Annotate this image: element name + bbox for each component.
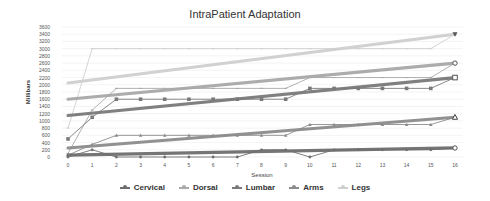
y-tick-label: 2400	[39, 67, 50, 73]
y-tick-label: 2000	[39, 82, 50, 88]
legend-label: Lumbar	[246, 183, 275, 192]
end-marker	[453, 61, 457, 65]
y-tick-label: 400	[42, 140, 51, 146]
data-point	[139, 156, 142, 159]
data-point	[308, 87, 312, 91]
legend-swatch-icon	[120, 187, 130, 189]
legend-item-lumbar[interactable]: Lumbar	[232, 183, 275, 192]
legend-swatch-icon	[338, 187, 348, 189]
y-tick-label: 2200	[39, 75, 50, 81]
y-tick-label: 1200	[39, 111, 50, 117]
data-point	[308, 156, 311, 159]
y-tick-label: 1600	[39, 96, 50, 102]
data-point	[66, 137, 70, 141]
legend-label: Legs	[352, 183, 371, 192]
legend-swatch-icon	[289, 187, 299, 189]
x-tick-label: 3	[139, 162, 142, 168]
x-tick-label: 2	[115, 162, 118, 168]
data-point	[429, 87, 433, 91]
end-marker	[453, 75, 458, 80]
chart: IntraPatient Adaptation 0200400600800100…	[0, 0, 490, 201]
y-tick-label: 2800	[39, 53, 50, 59]
data-point	[236, 156, 239, 159]
trendline-arms	[68, 117, 455, 148]
y-axis-label: Millibars	[25, 79, 31, 104]
data-point	[139, 97, 143, 101]
x-tick-label: 6	[212, 162, 215, 168]
x-tick-label: 9	[284, 162, 287, 168]
x-tick-label: 11	[331, 162, 336, 168]
trendline-lumbar	[68, 78, 455, 116]
data-point	[163, 97, 167, 101]
y-tick-label: 0	[47, 154, 50, 160]
x-tick-label: 8	[260, 162, 263, 168]
y-tick-label: 3400	[39, 31, 50, 37]
legend-item-cervical[interactable]: Cervical	[120, 183, 165, 192]
data-point	[115, 97, 119, 101]
data-point	[381, 87, 385, 91]
x-axis-label: Session	[251, 172, 272, 178]
trendline-dorsal	[68, 63, 455, 99]
y-tick-label: 1800	[39, 89, 50, 95]
legend-label: Arms	[303, 183, 323, 192]
end-marker	[452, 114, 457, 119]
y-tick-label: 200	[42, 147, 51, 153]
x-tick-label: 1	[91, 162, 94, 168]
plot-area: 0200400600800100012001400160018002000220…	[0, 0, 490, 201]
data-point	[187, 97, 191, 101]
data-point	[405, 87, 409, 91]
end-marker	[453, 146, 457, 150]
data-point	[91, 148, 94, 151]
legend-label: Cervical	[134, 183, 165, 192]
x-tick-label: 10	[307, 162, 313, 168]
x-tick-label: 0	[67, 162, 70, 168]
legend-label: Dorsal	[193, 183, 218, 192]
legend-swatch-icon	[179, 187, 189, 189]
y-tick-label: 800	[42, 125, 51, 131]
x-tick-label: 12	[355, 162, 361, 168]
y-tick-label: 3600	[39, 24, 50, 30]
y-tick-label: 600	[42, 132, 51, 138]
legend-swatch-icon	[232, 187, 242, 189]
series-lumbar	[66, 76, 457, 141]
x-tick-label: 13	[380, 162, 386, 168]
y-tick-label: 1400	[39, 103, 50, 109]
legend: CervicalDorsalLumbarArmsLegs	[0, 183, 490, 192]
data-point	[163, 156, 166, 159]
legend-item-dorsal[interactable]: Dorsal	[179, 183, 218, 192]
x-tick-label: 5	[188, 162, 191, 168]
x-tick-label: 16	[452, 162, 458, 168]
y-tick-label: 1000	[39, 118, 50, 124]
data-point	[188, 156, 191, 159]
y-tick-label: 2600	[39, 60, 50, 66]
x-tick-label: 14	[404, 162, 410, 168]
x-tick-label: 4	[163, 162, 166, 168]
x-tick-label: 15	[428, 162, 434, 168]
legend-item-arms[interactable]: Arms	[289, 183, 323, 192]
y-tick-label: 3200	[39, 38, 50, 44]
data-point	[115, 156, 118, 159]
data-point	[284, 97, 288, 101]
data-point	[212, 156, 215, 159]
legend-item-legs[interactable]: Legs	[338, 183, 371, 192]
data-point	[90, 115, 94, 119]
x-tick-label: 7	[236, 162, 239, 168]
y-tick-label: 3000	[39, 46, 50, 52]
